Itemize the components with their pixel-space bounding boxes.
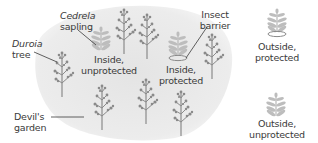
label-line: Inside, [156, 64, 206, 75]
label-line: tree [12, 49, 42, 60]
outside-protected-label: Outside, protected [252, 41, 302, 63]
label-line: unprotected [76, 65, 142, 76]
label-line: Inside, [76, 54, 142, 65]
label-line: Outside, [244, 118, 310, 129]
cedrela-sapling-label: Cedrela sapling [60, 10, 95, 32]
devils-garden-diagram: Cedrela sapling Duroia tree Inside, unpr… [0, 0, 318, 143]
label-line: Cedrela [60, 10, 95, 21]
label-line: unprotected [244, 129, 310, 140]
label-line: Devil's [14, 111, 46, 122]
inside-unprotected-label: Inside, unprotected [76, 54, 142, 76]
cedrela-sapling-icon [266, 93, 287, 118]
duroia-tree-label: Duroia tree [12, 38, 42, 60]
label-line: Outside, [252, 41, 302, 52]
outside-unprotected-label: Outside, unprotected [244, 118, 310, 140]
cedrela-sapling-icon [267, 9, 288, 34]
label-line: Duroia [12, 38, 42, 49]
inside-protected-label: Inside, protected [156, 64, 206, 86]
label-line: protected [252, 52, 302, 63]
label-line: barrier [193, 20, 237, 31]
insect-barrier-label: Insect barrier [193, 9, 237, 31]
label-line: garden [14, 122, 46, 133]
label-line: Insect [193, 9, 237, 20]
label-line: protected [156, 75, 206, 86]
insect-barrier-ring-icon [268, 31, 286, 36]
devils-garden-label: Devil's garden [14, 111, 46, 133]
label-line: sapling [60, 21, 95, 32]
